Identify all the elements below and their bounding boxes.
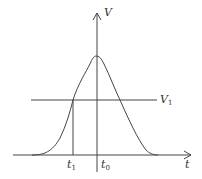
y-axis-label: V: [104, 7, 112, 18]
t1-label-sub: 1: [71, 164, 75, 172]
diagram: V V1 t1 t0 t: [0, 0, 202, 179]
diagram-graphics: [0, 0, 202, 179]
threshold-label-sub: 1: [168, 99, 172, 107]
x-axis-label: t: [185, 159, 189, 170]
threshold-label: V1: [160, 94, 172, 107]
pulse-curve: [32, 56, 158, 155]
threshold-label-text: V: [160, 93, 168, 106]
t1-label: t1: [67, 159, 76, 172]
x-axis-label-text: t: [185, 158, 189, 171]
t0-label-sub: 0: [105, 164, 109, 172]
y-axis-label-text: V: [104, 6, 112, 19]
t0-label: t0: [101, 159, 110, 172]
